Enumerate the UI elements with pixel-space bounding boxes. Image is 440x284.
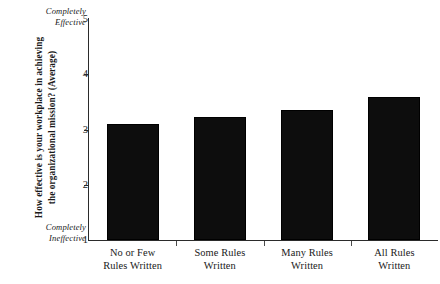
y-tick: 5 (60, 14, 88, 24)
y-tick-label: 1 (66, 235, 88, 245)
bar-chart: How effective is your workplace in achie… (0, 0, 440, 284)
y-tick: 1 (60, 235, 88, 245)
y-tick-mark (84, 74, 89, 75)
scale-anchor-low-line-1: Completely (22, 222, 86, 233)
bar (194, 117, 246, 240)
y-axis-title: How effective is your workplace in achie… (33, 8, 58, 248)
y-axis-title-line-1: How effective is your workplace in achie… (33, 8, 46, 248)
y-tick-label: 5 (66, 14, 88, 24)
category-label-line-2: Written (339, 259, 440, 272)
bar (107, 124, 159, 240)
y-axis-title-line-2: the organizational mission? (Average) (45, 8, 58, 248)
y-tick-mark (84, 185, 89, 186)
category-label-line-1: All Rules (339, 246, 440, 259)
category-label: All RulesWritten (339, 246, 440, 272)
bar (368, 97, 420, 240)
y-tick-mark (84, 130, 89, 131)
bar (281, 110, 333, 240)
